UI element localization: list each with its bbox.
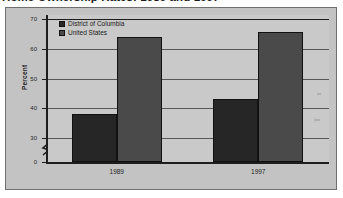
y-axis-tick-label: 60 — [30, 46, 37, 52]
scan-speckle — [314, 119, 320, 121]
legend-label: District of Columbia — [68, 21, 124, 28]
legend-item: District of Columbia — [59, 21, 124, 28]
bar-dc-1997 — [213, 99, 258, 162]
x-axis-label: 1997 — [251, 168, 265, 175]
y-axis-tick: 0 — [42, 162, 46, 163]
y-axis-line — [46, 15, 48, 164]
y-axis-tick: 50 — [42, 79, 46, 80]
figure-title-strip: Home Ownership Rates: 1989 and 1997 — [0, 0, 343, 7]
y-axis-tick: 30 — [42, 138, 46, 139]
y-axis-tick-label: 40 — [30, 105, 37, 111]
y-axis-tick-label: 0 — [34, 159, 37, 165]
x-axis-line — [46, 162, 329, 164]
legend-item: United States — [59, 30, 124, 37]
bar-dc-1989 — [72, 114, 117, 162]
legend: District of ColumbiaUnited States — [59, 21, 124, 38]
legend-swatch-dc — [59, 21, 65, 27]
legend-swatch-us — [59, 30, 65, 36]
y-axis-tick: 60 — [42, 49, 46, 50]
y-axis-tick-label: 70 — [30, 16, 37, 22]
y-axis-tick-label: 30 — [30, 135, 37, 141]
legend-label: United States — [68, 30, 107, 37]
figure-frame: Percent 03040506070 19891997 District of… — [5, 7, 337, 190]
page-title: Home Ownership Rates: 1989 and 1997 — [2, 0, 220, 3]
bar-us-1997 — [258, 32, 303, 162]
y-axis-tick-label: 50 — [30, 76, 37, 82]
y-axis-title: Percent — [21, 65, 28, 90]
scan-speckle — [317, 93, 321, 95]
y-axis-tick: 40 — [42, 108, 46, 109]
y-axis-tick: 70 — [42, 19, 46, 20]
bar-us-1989 — [117, 37, 162, 162]
x-axis-label: 1989 — [110, 168, 124, 175]
